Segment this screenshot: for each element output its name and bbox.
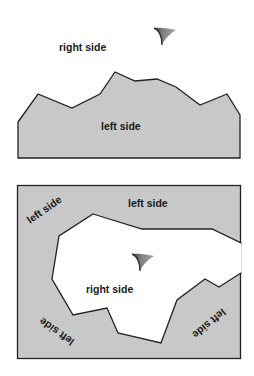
top-left-side-region bbox=[18, 72, 240, 158]
top-right-side-label: right side bbox=[59, 41, 106, 53]
arrowhead-icon bbox=[154, 28, 176, 45]
top-diagram: right side left side bbox=[18, 28, 240, 158]
bottom-right-side-label: right side bbox=[86, 283, 133, 295]
diagram-canvas: right side left side left side left side… bbox=[0, 0, 254, 376]
top-left-side-label: left side bbox=[101, 120, 141, 132]
bottom-diagram: left side left side left side left side … bbox=[18, 186, 242, 359]
bottom-left-side-label-top: left side bbox=[128, 197, 168, 209]
